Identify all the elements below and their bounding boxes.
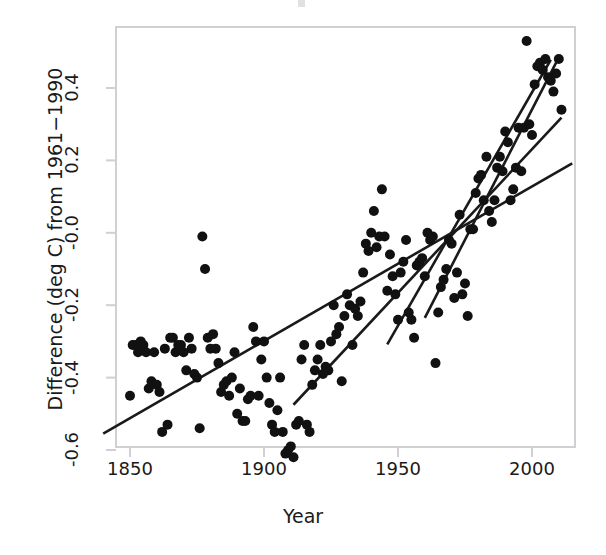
x-tick-label: 1950 (363, 458, 433, 479)
data-point (227, 373, 237, 383)
trend-line (387, 60, 550, 345)
data-point (380, 231, 390, 241)
data-point (230, 347, 240, 357)
data-point (160, 344, 170, 354)
data-points (125, 36, 566, 462)
data-point (297, 355, 307, 365)
data-point (428, 231, 438, 241)
data-point (503, 137, 513, 147)
data-point (406, 315, 416, 325)
data-point (154, 387, 164, 397)
data-point (401, 235, 411, 245)
data-point (256, 355, 266, 365)
data-point (235, 383, 245, 393)
data-point (272, 405, 282, 415)
data-point (481, 152, 491, 162)
data-point (390, 289, 400, 299)
data-point (369, 206, 379, 216)
x-tick-label: 2000 (497, 458, 567, 479)
data-point (524, 119, 534, 129)
data-point (125, 391, 135, 401)
data-point (441, 264, 451, 274)
data-point (337, 376, 347, 386)
trend-lines (103, 60, 572, 434)
data-point (307, 380, 317, 390)
data-point (347, 340, 357, 350)
data-point (342, 289, 352, 299)
data-point (551, 69, 561, 79)
data-point (358, 268, 368, 278)
data-point (377, 184, 387, 194)
data-point (460, 278, 470, 288)
data-point (275, 373, 285, 383)
data-point (192, 373, 202, 383)
data-point (254, 391, 264, 401)
data-point (184, 333, 194, 343)
y-tick-label: 0.4 (61, 57, 82, 119)
data-point (264, 398, 274, 408)
data-point (149, 347, 159, 357)
data-point (433, 307, 443, 317)
data-point (463, 311, 473, 321)
data-point (468, 224, 478, 234)
data-point (200, 264, 210, 274)
data-point (540, 54, 550, 64)
data-point (455, 210, 465, 220)
data-point (329, 300, 339, 310)
data-point (305, 427, 315, 437)
data-point (457, 289, 467, 299)
data-point (420, 271, 430, 281)
data-point (213, 358, 223, 368)
data-point (530, 79, 540, 89)
chart-figure: Year Difference (deg C) from 1961−1990 1… (0, 0, 606, 555)
y-axis-ticks (106, 88, 116, 450)
data-point (548, 87, 558, 97)
data-point (278, 427, 288, 437)
data-point (495, 152, 505, 162)
data-point (393, 315, 403, 325)
data-point (417, 253, 427, 263)
data-point (487, 217, 497, 227)
data-point (313, 355, 323, 365)
x-axis-title: Year (0, 505, 606, 527)
data-point (500, 126, 510, 136)
y-tick-label: -0.0 (61, 201, 82, 263)
data-point (498, 166, 508, 176)
data-point (286, 441, 296, 451)
data-point (197, 231, 207, 241)
data-point (554, 54, 564, 64)
data-point (409, 333, 419, 343)
data-point (195, 423, 205, 433)
data-point (484, 206, 494, 216)
data-point (506, 195, 516, 205)
data-point (452, 268, 462, 278)
data-point (372, 242, 382, 252)
data-point (396, 268, 406, 278)
y-tick-label: -0.6 (61, 419, 82, 481)
data-point (385, 250, 395, 260)
data-point (224, 391, 234, 401)
data-point (398, 257, 408, 267)
data-point (471, 188, 481, 198)
trend-line (103, 163, 572, 433)
data-point (262, 373, 272, 383)
data-point (489, 195, 499, 205)
data-point (211, 344, 221, 354)
data-point (315, 340, 325, 350)
x-tick-label: 1900 (229, 458, 299, 479)
data-point (556, 105, 566, 115)
data-point (522, 36, 532, 46)
data-point (248, 322, 258, 332)
data-point (476, 170, 486, 180)
data-point (299, 340, 309, 350)
y-tick-label: 0.2 (61, 129, 82, 191)
data-point (431, 358, 441, 368)
data-point (187, 344, 197, 354)
data-point (479, 195, 489, 205)
data-point (439, 275, 449, 285)
data-point (508, 184, 518, 194)
data-point (353, 311, 363, 321)
data-point (208, 329, 218, 339)
x-axis-ticks (130, 447, 532, 457)
y-tick-label: -0.4 (61, 346, 82, 408)
